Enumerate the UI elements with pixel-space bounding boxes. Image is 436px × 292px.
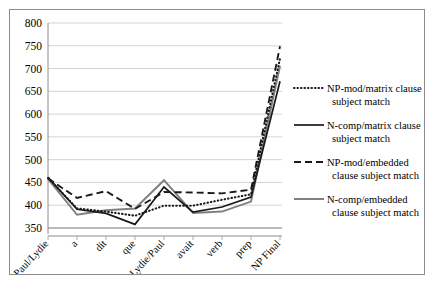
x-axis-label-group: Paul/Lydie xyxy=(11,238,50,274)
x-axis-tick-label: prep xyxy=(233,238,254,259)
y-axis-tick-label: 700 xyxy=(25,63,43,75)
x-axis-label-group: prep xyxy=(233,238,254,259)
y-axis-tick-label: 500 xyxy=(25,154,43,166)
legend-label-line2-2: subject match xyxy=(332,133,391,144)
legend-label-line1-1: NP-mod/matrix clause xyxy=(327,83,422,94)
legend-label-line1-3: NP-mod/embedded xyxy=(327,157,409,168)
legend-label-line2-3: clause subject match xyxy=(332,170,420,181)
x-axis-tick-label: a xyxy=(68,238,79,249)
legend-label-line2-1: subject match xyxy=(332,96,391,107)
y-axis-tick-label: 750 xyxy=(25,40,43,52)
y-axis-tick-label: 600 xyxy=(25,108,43,120)
chart-frame: 350400450500550600650700750800Paul/Lydie… xyxy=(9,9,425,275)
x-axis-tick-label: Paul/Lydie xyxy=(11,238,50,274)
x-axis-tick-label: dit xyxy=(93,238,109,254)
x-axis-label-group: NP Final xyxy=(249,238,283,273)
line-chart: 350400450500550600650700750800Paul/Lydie… xyxy=(10,10,426,274)
legend-label-line2-4: clause subject match xyxy=(332,207,420,218)
x-axis-label-group: que xyxy=(119,238,138,257)
y-axis-tick-label: 450 xyxy=(25,176,43,188)
legend-label-line1-2: N-comp/matrix clause xyxy=(327,120,421,131)
y-axis-tick-label: 350 xyxy=(25,222,43,234)
y-axis-tick-label: 800 xyxy=(25,17,43,29)
x-axis-label-group: avait xyxy=(174,238,196,260)
y-axis-tick-label: 400 xyxy=(25,199,43,211)
y-axis-tick-label: 550 xyxy=(25,131,43,143)
legend-label-line1-4: N-comp/embedded xyxy=(327,194,408,205)
x-axis-tick-label: verb xyxy=(204,238,225,259)
plot-area: 350400450500550600650700750800Paul/Lydie… xyxy=(10,10,426,274)
series-line-3 xyxy=(48,46,280,209)
x-axis-tick-label: que xyxy=(119,238,138,257)
x-axis-label-group: verb xyxy=(204,238,225,259)
x-axis-tick-label: NP Final xyxy=(249,238,283,273)
x-axis-label-group: a xyxy=(68,238,79,249)
x-axis-label-group: dit xyxy=(93,238,109,254)
x-axis-tick-label: avait xyxy=(174,238,196,260)
y-axis-tick-label: 650 xyxy=(25,85,43,97)
